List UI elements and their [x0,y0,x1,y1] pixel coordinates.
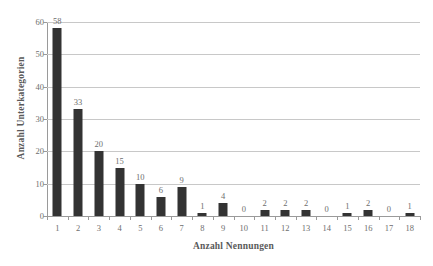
x-tick-label: 13 [302,223,311,233]
y-tick-mark [43,216,47,217]
x-tick-label: 4 [117,223,121,233]
y-tick-label: 50 [24,50,44,59]
bar-slot: 0 [316,22,337,216]
x-tick-mark [296,216,297,220]
x-tick-label: 11 [260,223,268,233]
bar-value-label: 2 [304,199,308,208]
y-tick-label: 0 [24,212,44,221]
x-tick-label: 1 [55,223,59,233]
x-axis-title: Anzahl Nennungen [47,241,420,251]
x-tick-mark [171,216,172,220]
bar [74,109,83,216]
bar-value-label: 2 [262,199,266,208]
y-tick-mark [43,119,47,120]
y-tick-label: 40 [24,82,44,91]
x-tick-mark [68,216,69,220]
bar-value-label: 0 [387,205,391,214]
bar-value-label: 58 [53,17,62,26]
x-tick-mark [379,216,380,220]
x-tick-mark [420,216,421,220]
x-tick-mark [358,216,359,220]
x-tick-mark [47,216,48,220]
x-tick-mark [213,216,214,220]
bar-value-label: 20 [95,140,104,149]
bar [53,28,62,216]
bar [136,184,145,216]
y-tick-mark [43,54,47,55]
x-tick-mark [109,216,110,220]
bar-slot: 0 [234,22,255,216]
bar-slot: 9 [171,22,192,216]
x-tick-mark [151,216,152,220]
x-tick-mark [316,216,317,220]
y-tick-label: 10 [24,179,44,188]
x-tick-label: 2 [76,223,80,233]
y-tick-mark [43,87,47,88]
bar-value-label: 1 [408,202,412,211]
bar-slot: 2 [275,22,296,216]
bar-slot: 33 [68,22,89,216]
bar [156,197,165,216]
bar-value-label: 0 [325,205,329,214]
bar-value-label: 1 [345,202,349,211]
x-tick-mark [337,216,338,220]
x-tick-mark [275,216,276,220]
bar-value-label: 4 [221,192,225,201]
x-tick-label: 3 [97,223,101,233]
x-tick-label: 6 [159,223,163,233]
bar [219,203,228,216]
bar [115,168,124,217]
bar-slot: 10 [130,22,151,216]
bar-slot: 4 [213,22,234,216]
bar-value-label: 9 [180,176,184,185]
bar-slot: 0 [379,22,400,216]
bar-value-label: 6 [159,186,163,195]
bar [177,187,186,216]
y-tick-label: 60 [24,18,44,27]
bar-slot: 2 [254,22,275,216]
x-tick-label: 14 [323,223,332,233]
bar-slot: 2 [296,22,317,216]
bar-slot: 1 [337,22,358,216]
bar-slot: 2 [358,22,379,216]
x-tick-mark [254,216,255,220]
bar-chart: Anzahl Unterkategorien 0102030405060 583… [0,0,433,266]
x-tick-label: 7 [180,223,184,233]
x-tick-label: 5 [138,223,142,233]
x-tick-label: 9 [221,223,225,233]
x-tick-mark [399,216,400,220]
x-tick-mark [192,216,193,220]
bar-value-label: 0 [242,205,246,214]
bar [94,151,103,216]
x-tick-label: 18 [405,223,414,233]
bar-slot: 1 [192,22,213,216]
x-tick-mark [130,216,131,220]
x-tick-label: 10 [240,223,249,233]
x-tick-mark [88,216,89,220]
y-tick-mark [43,151,47,152]
bar-value-label: 15 [115,157,124,166]
x-tick-label: 16 [364,223,373,233]
bar-value-label: 10 [136,173,145,182]
y-tick-mark [43,22,47,23]
x-tick-mark [234,216,235,220]
bars-layer: 58332015106914022201201 [47,22,420,216]
y-axis-tick-labels: 0102030405060 [24,22,44,216]
bar-slot: 20 [88,22,109,216]
x-tick-label: 12 [281,223,290,233]
x-tick-label: 15 [343,223,352,233]
x-tick-label: 8 [200,223,204,233]
bar-value-label: 2 [283,199,287,208]
bar-value-label: 1 [200,202,204,211]
bar-slot: 15 [109,22,130,216]
y-tick-label: 20 [24,147,44,156]
bar-value-label: 2 [366,199,370,208]
bar-slot: 1 [399,22,420,216]
x-tick-label: 17 [385,223,394,233]
y-tick-mark [43,184,47,185]
y-tick-label: 30 [24,115,44,124]
bar-value-label: 33 [74,98,83,107]
bar-slot: 58 [47,22,68,216]
bar-slot: 6 [151,22,172,216]
